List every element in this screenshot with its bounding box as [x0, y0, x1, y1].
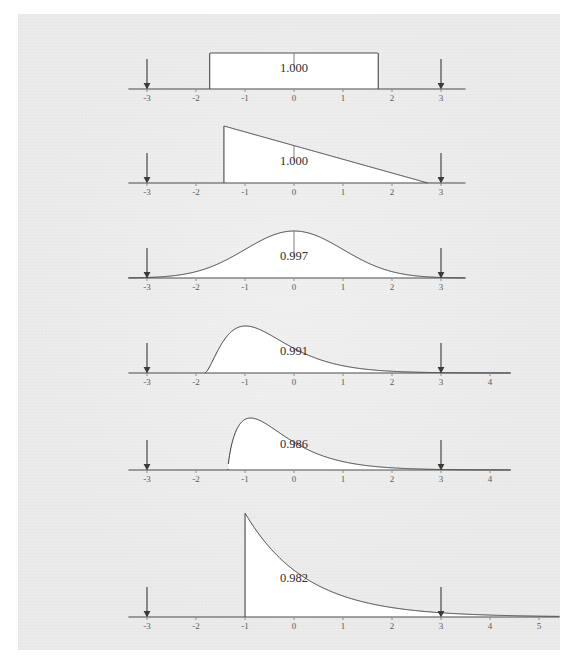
x-tick-label: 0 — [284, 621, 304, 631]
x-tick-label: -2 — [186, 621, 206, 631]
x-tick-label: 4 — [480, 621, 500, 631]
limit-marker-upper — [438, 587, 445, 618]
x-tick-label: 5 — [529, 621, 549, 631]
limit-marker-lower — [144, 587, 151, 618]
x-tick-label: -3 — [137, 621, 157, 631]
panel-graphics-exponential — [0, 0, 579, 669]
figure-canvas: -3-2-101231.000-3-2-101231.000-3-2-10123… — [0, 0, 579, 669]
x-tick-label: -1 — [235, 621, 255, 631]
x-tick-label: 2 — [382, 621, 402, 631]
x-tick-label: 1 — [333, 621, 353, 631]
area-value-label: 0.982 — [259, 571, 329, 586]
shaded-area-exponential — [245, 514, 559, 617]
x-tick-label: 3 — [431, 621, 451, 631]
